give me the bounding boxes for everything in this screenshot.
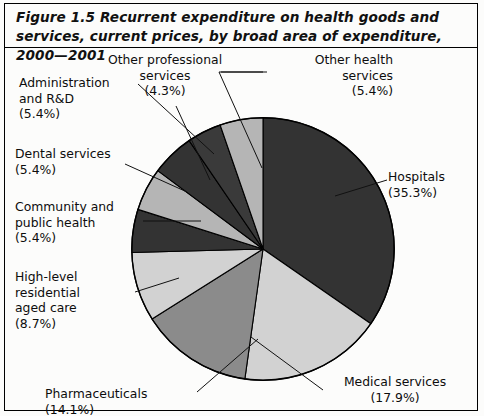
pie-slice-group [132,118,394,380]
label-other-health-services: Other health services (5.4%) [267,52,393,99]
label-dental-services: Dental services (5.4%) [15,146,151,177]
label-community-and-public-health: Community and public health (5.4%) [15,199,151,246]
pie-svg [131,117,395,381]
figure-title-block: Figure 1.5 Recurrent expenditure on heal… [4,3,478,48]
plot-area: Other professional services (4.3%) Other… [5,49,477,410]
label-medical-services: Medical services (17.9%) [325,374,465,405]
figure-container: Figure 1.5 Recurrent expenditure on heal… [0,0,484,416]
pie-chart [131,117,395,381]
label-high-level-residential-aged-care: High-level residential aged care (8.7%) [15,269,143,331]
label-hospitals: Hospitals (35.3%) [388,169,480,200]
label-pharmaceuticals: Pharmaceuticals (14.1%) [45,386,195,416]
label-administration-and-rd: Administration and R&D (5.4%) [19,75,153,122]
